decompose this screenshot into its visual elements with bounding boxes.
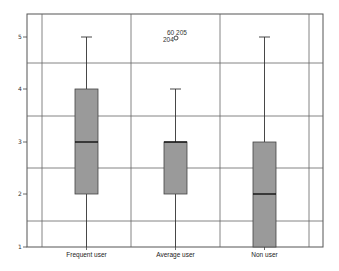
- y-tick-3: 3: [18, 138, 22, 145]
- box-plot-chart: 5 4 3 2 1 60 205 204 F: [0, 0, 339, 271]
- y-tick-1: 1: [18, 243, 22, 250]
- category-label-average-user: Average user: [156, 251, 195, 259]
- y-tick-5: 5: [18, 33, 22, 40]
- y-axis-ticks: [23, 37, 27, 247]
- y-tick-4: 4: [18, 85, 22, 92]
- x-axis-category-labels: Frequent user Average user Non user: [66, 251, 278, 259]
- outlier-label-left: 204: [163, 36, 174, 43]
- outlier-label-top: 60 205: [167, 29, 187, 36]
- category-label-non-user: Non user: [251, 251, 278, 258]
- y-axis-tick-labels: 5 4 3 2 1: [18, 33, 22, 250]
- y-tick-2: 2: [18, 190, 22, 197]
- plot-frame: [27, 14, 323, 247]
- category-label-frequent-user: Frequent user: [66, 251, 107, 259]
